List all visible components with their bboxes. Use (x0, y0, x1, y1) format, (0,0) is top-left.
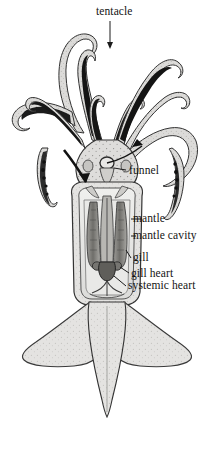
label-mantle: mantle (133, 213, 165, 225)
label-gill: gill (133, 252, 149, 264)
label-systemic-heart: systemic heart (128, 280, 196, 292)
label-funnel: funnel (129, 165, 159, 177)
label-gill-heart: gill heart (131, 268, 173, 280)
systemic-heart (99, 262, 116, 281)
squid-anatomy-diagram: tentacle funnel mantle mantle cavity gil… (0, 0, 214, 449)
squid-figure (0, 0, 214, 449)
tentacle-right (127, 128, 198, 187)
label-mantle-cavity: mantle cavity (133, 230, 197, 242)
fins-and-tail-group (23, 302, 192, 417)
eye-left (83, 160, 93, 172)
tentacle-club-left (37, 148, 57, 207)
leader-tentacle (107, 21, 113, 49)
label-tentacle: tentacle (96, 6, 133, 18)
